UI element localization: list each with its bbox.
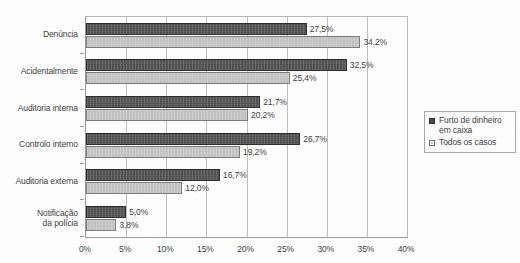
- bar: [86, 146, 240, 158]
- x-tick-label: 25%: [277, 244, 294, 254]
- bar: [86, 133, 300, 145]
- bar: [86, 109, 248, 121]
- bar: [86, 59, 347, 71]
- bar: [86, 23, 307, 35]
- legend-label: Todos os casos: [439, 138, 496, 148]
- bar: [86, 36, 360, 48]
- category-tick: [80, 199, 84, 200]
- bar-group: 16,7%12,0%: [86, 164, 407, 201]
- x-tick-label: 10%: [157, 244, 174, 254]
- bar: [86, 72, 290, 84]
- bar-value-label: 3,8%: [119, 221, 138, 230]
- bar-value-label: 16,7%: [223, 171, 247, 180]
- bar-value-label: 21,7%: [263, 98, 287, 107]
- x-tick-label: 15%: [197, 244, 214, 254]
- x-tick-label: 35%: [358, 244, 375, 254]
- plot-area: 27,5%34,2%32,5%25,4%21,7%20,2%26,7%19,2%…: [85, 16, 408, 238]
- category-tick: [80, 89, 84, 90]
- bar-value-label: 5,0%: [129, 208, 148, 217]
- bar: [86, 219, 116, 231]
- bar-chart: DenúnciaAcidentalmenteAuditoria internaC…: [0, 0, 520, 263]
- category-tick: [80, 126, 84, 127]
- bar-group: 26,7%19,2%: [86, 127, 407, 164]
- bar-value-label: 20,2%: [251, 111, 275, 120]
- chart-legend: Furto de dinheiro em caixaTodos os casos: [424, 111, 516, 153]
- category-label: Acidentalmente: [21, 66, 78, 76]
- category-tick: [80, 163, 84, 164]
- category-label: Auditoria interna: [18, 103, 78, 113]
- bar-value-label: 26,7%: [303, 135, 327, 144]
- x-tick-label: 20%: [237, 244, 254, 254]
- x-tick-label: 30%: [317, 244, 334, 254]
- legend-label: Furto de dinheiro em caixa: [439, 116, 502, 135]
- x-tick-label: 5%: [119, 244, 131, 254]
- bar-value-label: 32,5%: [350, 61, 374, 70]
- category-tick: [80, 236, 84, 237]
- bar-value-label: 34,2%: [363, 38, 387, 47]
- bar-group: 27,5%34,2%: [86, 17, 407, 54]
- x-axis-tick-labels: 0%5%10%15%20%25%30%35%40%: [85, 239, 408, 259]
- bar-group: 32,5%25,4%: [86, 54, 407, 91]
- x-tick-label: 40%: [398, 244, 415, 254]
- legend-swatch-dark: [429, 118, 435, 124]
- category-label: Auditoria externa: [15, 176, 78, 186]
- bar-group: 5,0%3,8%: [86, 200, 407, 237]
- legend-swatch-light: [429, 140, 435, 146]
- bar-value-label: 25,4%: [293, 74, 317, 83]
- legend-item: Furto de dinheiro em caixa: [429, 116, 510, 135]
- bar: [86, 182, 182, 194]
- category-label: Controlo interno: [19, 139, 78, 149]
- bar: [86, 206, 126, 218]
- bar-group: 21,7%20,2%: [86, 90, 407, 127]
- category-label: Denúncia: [43, 29, 78, 39]
- category-axis-labels: DenúnciaAcidentalmenteAuditoria internaC…: [0, 16, 82, 238]
- bar: [86, 96, 260, 108]
- category-label: Notificação da polícia: [37, 208, 78, 228]
- bar-value-label: 27,5%: [310, 25, 334, 34]
- category-tick: [80, 53, 84, 54]
- bar-groups: 27,5%34,2%32,5%25,4%21,7%20,2%26,7%19,2%…: [86, 17, 407, 237]
- bar-value-label: 19,2%: [243, 148, 267, 157]
- x-tick-label: 0%: [79, 244, 91, 254]
- bar: [86, 169, 220, 181]
- bar-value-label: 12,0%: [185, 184, 209, 193]
- legend-item: Todos os casos: [429, 138, 510, 148]
